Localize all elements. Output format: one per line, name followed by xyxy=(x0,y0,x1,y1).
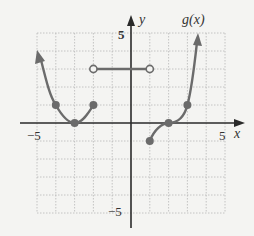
left-parabola xyxy=(41,60,93,123)
function-label: g(x) xyxy=(182,12,205,28)
left-curve-arrow-icon xyxy=(35,50,45,64)
function-curves xyxy=(41,42,197,141)
point-neg2-1 xyxy=(89,101,97,109)
y-axis-label: y xyxy=(137,12,146,27)
open-point-1-3 xyxy=(146,65,153,72)
graph-canvas: y x 5 −5 −5 5 g(x) xyxy=(0,0,254,236)
point-3-1 xyxy=(183,101,191,109)
x-max-tick-label: 5 xyxy=(219,128,226,143)
point-1-neg1 xyxy=(146,137,154,145)
right-curve-arrow-icon xyxy=(193,33,202,46)
point-2-0 xyxy=(165,119,173,127)
x-min-tick-label: −5 xyxy=(27,128,41,143)
point-neg3-0 xyxy=(71,119,79,127)
point-neg4-1 xyxy=(52,101,60,109)
open-point-neg2-3 xyxy=(90,65,97,72)
x-axis-label: x xyxy=(233,126,241,141)
y-min-tick-label: −5 xyxy=(108,204,122,219)
y-max-tick-label: 5 xyxy=(118,27,125,42)
right-cubic xyxy=(150,42,197,141)
y-axis-arrow-icon xyxy=(127,15,135,26)
